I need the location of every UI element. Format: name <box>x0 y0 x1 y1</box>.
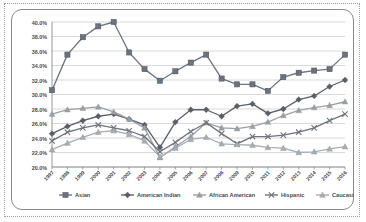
x-axis-tick-label: 2003 <box>135 169 147 181</box>
chart-figure: 20.0%22.0%24.0%26.0%28.0%30.0%32.0%34.0%… <box>0 0 366 222</box>
x-axis-tick-label: 2009 <box>228 169 240 181</box>
data-point-marker <box>142 67 147 72</box>
data-point-marker <box>296 70 301 75</box>
x-axis-tick-label: 2008 <box>212 169 224 181</box>
data-point-marker <box>312 68 317 73</box>
data-point-marker <box>65 52 70 57</box>
legend-item-label: Asian <box>75 192 91 198</box>
x-axis-tick-label: 2005 <box>166 169 178 181</box>
legend-item-label: African American <box>209 192 256 198</box>
data-point-marker <box>96 24 101 29</box>
data-point-marker <box>250 82 255 87</box>
data-point-marker <box>188 60 193 65</box>
legend-item-label: Hispanic <box>281 192 304 198</box>
data-point-marker <box>234 82 239 87</box>
x-axis-tick-label: 2001 <box>104 169 116 181</box>
x-axis-tick-label: 2011 <box>259 169 271 181</box>
y-axis-tick-label: 30.0% <box>32 92 47 98</box>
legend-item-asian[interactable]: Asian <box>59 192 91 198</box>
y-axis-tick-label: 26.0% <box>32 121 47 127</box>
line-chart: 20.0%22.0%24.0%26.0%28.0%30.0%32.0%34.0%… <box>11 9 354 210</box>
x-axis-tick-label: 1999 <box>73 169 85 181</box>
data-point-marker <box>49 88 54 93</box>
x-axis-tick-label: 2006 <box>181 169 193 181</box>
y-axis-tick-label: 38.0% <box>32 34 47 40</box>
data-point-marker <box>127 50 132 55</box>
legend-item-label: Caucasian <box>332 192 354 198</box>
data-point-marker <box>157 78 162 83</box>
x-axis-tick-label: 2016 <box>335 169 347 181</box>
data-point-marker <box>342 52 347 57</box>
x-axis-tick-label: 2002 <box>120 169 132 181</box>
data-point-marker <box>327 67 332 72</box>
x-axis-tick-label: 2010 <box>243 169 255 181</box>
x-axis-tick-label: 2015 <box>320 169 332 181</box>
x-axis-tick-label: 1997 <box>42 169 54 181</box>
y-axis-tick-label: 20.0% <box>32 165 47 171</box>
x-axis-tick-label: 2013 <box>289 169 301 181</box>
data-point-marker <box>125 192 131 198</box>
chart-legend: AsianAmerican IndianAfrican AmericanHisp… <box>59 192 354 198</box>
legend-item-label: American Indian <box>137 192 181 198</box>
x-axis-tick-label: 2007 <box>197 169 209 181</box>
data-point-marker <box>111 19 116 24</box>
x-axis-tick-label: 1998 <box>58 169 70 181</box>
y-axis-tick-label: 34.0% <box>32 63 47 69</box>
data-point-marker <box>63 192 68 197</box>
data-point-marker <box>204 52 209 57</box>
legend-item-american-indian[interactable]: American Indian <box>121 192 181 198</box>
data-point-marker <box>219 76 224 81</box>
legend-item-african-american[interactable]: African American <box>193 192 256 198</box>
x-axis-tick-label: 2004 <box>150 169 162 181</box>
y-axis-tick-label: 32.0% <box>32 78 47 84</box>
y-axis-tick-label: 22.0% <box>32 150 47 156</box>
data-point-marker <box>173 69 178 74</box>
y-axis-tick-label: 40.0% <box>32 20 47 26</box>
data-point-marker <box>265 88 270 93</box>
y-axis-tick-label: 28.0% <box>32 107 47 113</box>
y-axis-tick-label: 36.0% <box>32 49 47 55</box>
data-point-marker <box>80 35 85 40</box>
legend-item-caucasian[interactable]: Caucasian <box>316 192 354 198</box>
legend-item-hispanic[interactable]: Hispanic <box>265 192 304 198</box>
x-axis-tick-label: 2014 <box>305 169 317 181</box>
x-axis-tick-label: 2000 <box>89 169 101 181</box>
y-axis-tick-label: 24.0% <box>32 136 47 142</box>
data-point-marker <box>281 75 286 80</box>
x-axis-tick-label: 2012 <box>274 169 286 181</box>
